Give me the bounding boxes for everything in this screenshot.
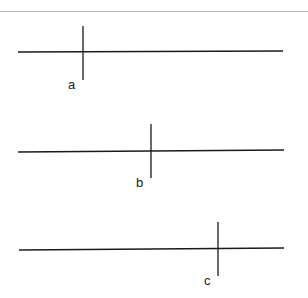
label-c: c [204,274,211,287]
diagram-canvas [0,0,308,298]
line-a [18,26,283,80]
line-a-horizontal [18,51,283,52]
line-c-horizontal [19,248,284,250]
line-b [18,124,284,178]
label-b: b [136,176,143,189]
label-a: a [68,78,75,91]
line-c [19,222,284,276]
